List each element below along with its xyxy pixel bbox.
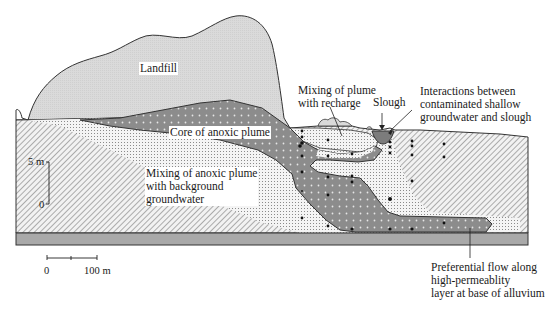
label-interactions: Interactions between contaminated shallo… [420, 85, 531, 124]
surface-mound-small [366, 127, 372, 129]
horizontal-scale-bar [47, 255, 97, 260]
interactions-leader [390, 110, 412, 131]
label-mixing-recharge: Mixing of plume with recharge [298, 84, 376, 110]
label-landfill: Landfill [139, 62, 178, 75]
horizontal-scale-left-label: 0 [44, 264, 49, 277]
vertical-scale-bottom-label: 0 [39, 198, 44, 211]
label-preferential-flow: Preferential flow along high-permeablity… [431, 261, 545, 300]
label-core-plume: Core of anoxic plume [169, 126, 271, 139]
horizontal-scale-right-label: 100 m [84, 264, 111, 277]
label-mixing-background: Mixing of anoxic plume with background g… [145, 167, 258, 206]
base-alluvium-layer [16, 233, 528, 245]
left-bank [16, 109, 28, 120]
vertical-scale-top-label: 5 m [28, 155, 44, 168]
label-slough: Slough [373, 96, 406, 109]
